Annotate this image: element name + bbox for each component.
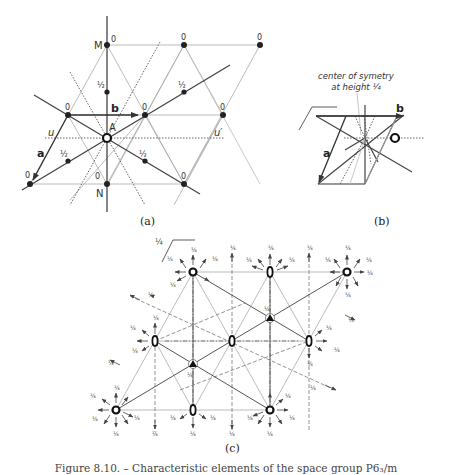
svg-text:¼: ¼ bbox=[92, 415, 98, 422]
height-label: ½ bbox=[139, 150, 147, 159]
two-fold-site bbox=[252, 254, 288, 277]
svg-text:¼: ¼ bbox=[152, 430, 158, 437]
vector-a-label: a bbox=[323, 147, 330, 160]
svg-text:¼: ¼ bbox=[170, 281, 176, 288]
svg-text:¼: ¼ bbox=[187, 371, 193, 378]
height-label: 0 bbox=[181, 33, 186, 42]
height-label: ½ bbox=[97, 81, 105, 90]
svg-text:¼: ¼ bbox=[132, 347, 138, 354]
svg-text:¼: ¼ bbox=[130, 324, 136, 331]
svg-text:¼: ¼ bbox=[307, 244, 313, 251]
height-label: 0 bbox=[111, 35, 116, 44]
panel-b-caption: (b) bbox=[374, 215, 390, 228]
svg-text:¼: ¼ bbox=[326, 324, 332, 331]
svg-text:¼: ¼ bbox=[285, 392, 291, 399]
svg-text:¼: ¼ bbox=[247, 414, 253, 421]
two-fold-site bbox=[180, 405, 206, 428]
height-label: 0 bbox=[257, 33, 262, 42]
svg-text:¼: ¼ bbox=[212, 255, 218, 262]
svg-text:¼: ¼ bbox=[153, 314, 159, 321]
svg-text:¼: ¼ bbox=[191, 246, 197, 253]
vector-b-label: b bbox=[396, 102, 404, 115]
svg-text:¼: ¼ bbox=[210, 414, 216, 421]
annotation-line-2: at height ¼ bbox=[331, 82, 381, 92]
svg-text:¼: ¼ bbox=[367, 269, 373, 276]
svg-text:¼: ¼ bbox=[230, 244, 236, 251]
height-label: 0 bbox=[95, 172, 100, 181]
svg-text:¼: ¼ bbox=[246, 256, 252, 263]
svg-text:¼: ¼ bbox=[114, 384, 120, 391]
svg-text:¼: ¼ bbox=[134, 414, 140, 421]
svg-text:¼: ¼ bbox=[366, 256, 372, 263]
svg-text:¼: ¼ bbox=[334, 346, 340, 353]
vector-a-label: a bbox=[37, 147, 44, 160]
svg-text:¼: ¼ bbox=[190, 430, 196, 437]
annotation-line-1: center of symetry bbox=[318, 71, 395, 81]
svg-text:¼: ¼ bbox=[345, 244, 351, 251]
svg-text:¼: ¼ bbox=[229, 430, 235, 437]
panel-b-diagram: center of symetry at height ¼ bbox=[299, 71, 425, 228]
panel-c-caption: (c) bbox=[225, 442, 240, 455]
height-label: 0 bbox=[25, 171, 30, 180]
two-fold-site bbox=[229, 336, 234, 346]
svg-text:¼: ¼ bbox=[289, 414, 295, 421]
svg-text:¼: ¼ bbox=[113, 430, 119, 437]
six-fold-site bbox=[175, 255, 209, 281]
panel-c-diagram: ¼ bbox=[90, 238, 373, 455]
three-fold-site bbox=[189, 360, 198, 369]
figure-canvas: 0 0 0 0 0 0 0 0 0 ½ ½ ½ ½ M N A b a u u′… bbox=[0, 0, 452, 475]
svg-text:¼: ¼ bbox=[108, 359, 114, 366]
height-label: 0 bbox=[142, 103, 147, 112]
inversion-center-icon bbox=[391, 134, 399, 142]
point-m-label: M bbox=[94, 40, 103, 51]
svg-text:¼: ¼ bbox=[267, 430, 273, 437]
svg-text:¼: ¼ bbox=[268, 244, 274, 251]
point-n-label: N bbox=[96, 188, 103, 199]
two-fold-site bbox=[137, 323, 158, 351]
svg-text:¼: ¼ bbox=[289, 256, 295, 263]
panel-a-caption: (a) bbox=[140, 215, 155, 228]
six-fold-site bbox=[330, 255, 364, 289]
line-u-label: u bbox=[48, 127, 54, 138]
point-a-label: A bbox=[109, 122, 116, 133]
svg-text:¼: ¼ bbox=[345, 291, 351, 298]
vector-b-label: b bbox=[111, 102, 119, 115]
svg-text:¼: ¼ bbox=[264, 305, 270, 312]
panel-a-diagram: 0 0 0 0 0 0 0 0 0 ½ ½ ½ ½ M N A b a u u′… bbox=[22, 16, 263, 228]
inversion-center-icon bbox=[103, 134, 111, 142]
svg-text:¼: ¼ bbox=[348, 316, 354, 323]
two-fold-site bbox=[306, 330, 327, 358]
svg-text:¼: ¼ bbox=[90, 392, 96, 399]
height-label: ½ bbox=[60, 150, 68, 159]
three-fold-site bbox=[266, 314, 275, 323]
svg-text:¼: ¼ bbox=[167, 255, 173, 262]
height-label: 0 bbox=[65, 103, 70, 112]
height-label: ½ bbox=[178, 81, 186, 90]
svg-text:¼: ¼ bbox=[170, 414, 176, 421]
line-u-prime-label: u′ bbox=[214, 127, 223, 138]
svg-text:¼: ¼ bbox=[310, 384, 316, 391]
height-label: 0 bbox=[181, 172, 186, 181]
figure-caption: Figure 8.10. – Characteristic elements o… bbox=[0, 462, 452, 474]
height-label: ¼ bbox=[155, 238, 163, 247]
svg-text:¼: ¼ bbox=[325, 256, 331, 263]
svg-text:¼: ¼ bbox=[307, 360, 313, 367]
svg-text:¼: ¼ bbox=[148, 291, 154, 298]
height-label: 0 bbox=[220, 103, 225, 112]
